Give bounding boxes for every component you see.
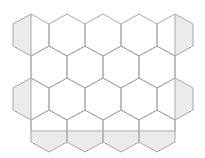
hexagon-r2-c3	[103, 46, 139, 88]
hexagon-r2-c4	[139, 46, 175, 88]
hexagon-r3-c4	[121, 78, 157, 120]
hexagon-r2-c1	[31, 46, 67, 88]
hexagon-shade	[121, 14, 157, 56]
hexagon-r2-c2	[67, 46, 103, 88]
hexagon-shade	[31, 46, 67, 88]
hexagon-tiling-diagram	[0, 0, 205, 158]
hexagon-shade	[121, 78, 157, 120]
hexagon-r3-c2	[49, 78, 85, 120]
hexagon-shade	[49, 78, 85, 120]
hexagon-shade	[49, 14, 85, 56]
hexagon-r1-c3	[85, 14, 121, 56]
hexagon-shade	[139, 46, 175, 88]
hexagon-r1-c4	[121, 14, 157, 56]
hexagon-shade	[103, 46, 139, 88]
hexagon-shade	[85, 14, 121, 56]
hexagon-shade	[85, 78, 121, 120]
hexagon-shade	[67, 46, 103, 88]
hexagon-r1-c2	[49, 14, 85, 56]
hexagon-r3-c3	[85, 78, 121, 120]
